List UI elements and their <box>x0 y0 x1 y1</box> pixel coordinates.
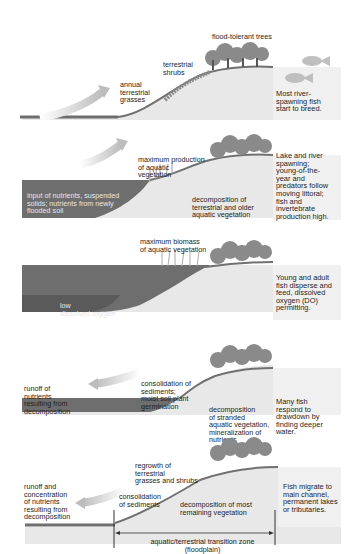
side-text-stage-2: Lake and river spawning; young-of-the- y… <box>276 152 329 220</box>
label-terrestrial-shrubs: terrestrial shrubs <box>163 61 193 76</box>
stage-4-panel: runoff of nutrients resulting from decom… <box>0 320 363 415</box>
side-text-stage-3: Young and adult fish disperse and feed, … <box>276 274 332 312</box>
stage-3-panel: maximum biomass of aquatic vegetation lo… <box>0 220 363 320</box>
label-annual-grasses: annual terrestrial grasses <box>120 81 150 104</box>
label-consolidation-sediments: consolidation of sediments <box>119 493 161 508</box>
trees-icon <box>210 437 272 461</box>
trees-icon <box>210 240 272 264</box>
label-max-production: maximum production of aquatic vegetation <box>138 156 205 179</box>
label-regrowth: regrowth of terrestrial grasses and shru… <box>135 462 198 485</box>
side-text-stage-1: Most river- spawning fish start to breed… <box>276 90 322 113</box>
label-decomposition: decomposition of terrestrial and older a… <box>192 196 254 219</box>
label-flood-tolerant-trees: flood-tolerant trees <box>212 33 272 41</box>
stage-2-panel: maximum production of aquatic vegetation… <box>0 120 363 220</box>
label-max-biomass: maximum biomass of aquatic vegetation <box>140 238 206 253</box>
fish-icon <box>302 56 330 66</box>
stage-5-panel: runoff and concentration of nutrients re… <box>0 415 363 552</box>
label-nutrient-input: input of nutrients, suspended solids; nu… <box>27 192 119 215</box>
label-runoff: runoff of nutrients resulting from decom… <box>24 385 70 415</box>
trees-icon <box>210 344 272 368</box>
label-decomposition-remaining: decomposition of most remaining vegetati… <box>180 501 252 516</box>
label-low-oxygen: low dissolved oxygen <box>60 302 115 317</box>
side-text-stage-5: Fish migrate to main channel, permanent … <box>283 483 338 513</box>
label-runoff-concentration: runoff and concentration of nutrients re… <box>24 483 70 521</box>
label-transition-zone: aquatic/terrestrial transition zone (flo… <box>140 538 265 553</box>
label-consolidation: consolidation of sediments; moist soil p… <box>141 380 191 410</box>
stage-1-panel: flood-tolerant trees terrestrial shrubs … <box>0 0 363 120</box>
